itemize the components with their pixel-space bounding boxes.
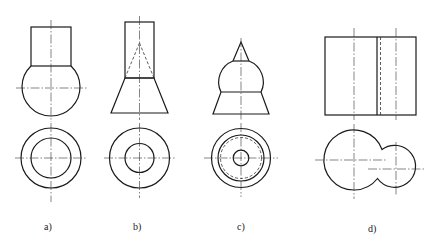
hidden-cone-edge-left (125, 43, 140, 78)
panel-a-front-view (16, 20, 87, 122)
panel-b-front-view (111, 16, 168, 120)
panel-d-front-view (325, 28, 416, 120)
panel-a-label: a) (44, 221, 52, 233)
orthographic-views-figure: a) b) (0, 0, 432, 249)
panel-d: d) (315, 28, 424, 235)
cylinders-outline (325, 37, 416, 115)
panel-c-front-view (213, 38, 269, 120)
hidden-cone-edge-right (140, 43, 155, 78)
panel-b: b) (104, 16, 176, 233)
panel-c-label: c) (237, 221, 245, 233)
panel-a: a) (15, 20, 87, 233)
panel-d-top-view (315, 124, 424, 199)
panel-a-top-view (15, 123, 87, 202)
panel-d-label: d) (368, 223, 376, 235)
panel-b-label: b) (133, 221, 141, 233)
panel-b-top-view (104, 123, 176, 198)
panel-c-top-view (204, 123, 278, 197)
panel-c: c) (204, 38, 278, 233)
